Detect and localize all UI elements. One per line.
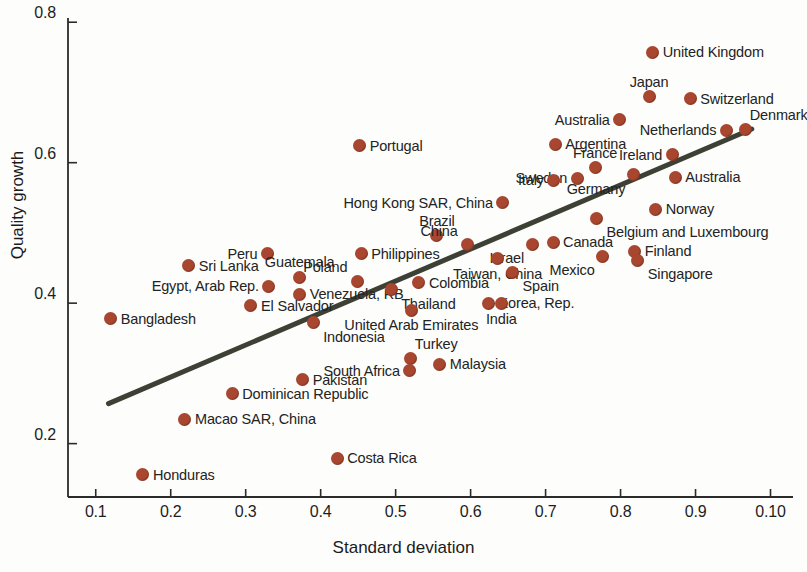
data-point[interactable] [549, 138, 562, 151]
data-point-label: Norway [666, 202, 714, 217]
data-point-label: Poland [303, 260, 347, 275]
data-point-label: Costa Rica [347, 451, 416, 466]
data-point-label: El Salvador [261, 299, 334, 314]
data-point-label: United Kingdom [663, 45, 764, 60]
data-point[interactable] [307, 316, 320, 329]
x-tick-label: 0.10 [755, 503, 785, 521]
data-point-label: Malaysia [450, 357, 506, 372]
data-point[interactable] [526, 238, 539, 251]
data-point-label: Colombia [429, 276, 489, 291]
data-point-label: Ireland [619, 148, 662, 163]
y-tick-label: 0.4 [0, 285, 56, 303]
data-point[interactable] [720, 124, 733, 137]
data-point-label: Sri Lanka [199, 259, 259, 274]
data-point[interactable] [547, 236, 560, 249]
data-point-label: Japan [630, 74, 669, 89]
data-point-label: Australia [555, 113, 610, 128]
y-axis-title: Quality growth [8, 135, 28, 275]
y-tick-label: 0.8 [0, 4, 56, 22]
data-point[interactable] [506, 266, 519, 279]
x-tick-label: 0.6 [460, 503, 482, 521]
x-tick-label: 0.4 [310, 503, 332, 521]
data-point-label: Korea, Rep. [499, 296, 575, 311]
x-tick-label: 0.2 [160, 503, 182, 521]
data-point[interactable] [405, 304, 418, 317]
x-tick-label: 0.9 [685, 503, 707, 521]
data-point[interactable] [627, 168, 640, 181]
x-tick-label: 0.1 [85, 503, 107, 521]
data-point-label: Netherlands [640, 123, 717, 138]
data-point[interactable] [482, 297, 495, 310]
data-point[interactable] [649, 203, 662, 216]
data-point-label: Macao SAR, China [195, 412, 316, 427]
x-tick-label: 0.7 [535, 503, 557, 521]
data-point-label: Belgium and Luxembourg [607, 225, 769, 240]
scatter-chart-figure: 0.20.40.60.8 0.10.20.30.40.50.60.70.80.9… [0, 0, 807, 572]
data-point-label: Portugal [370, 139, 423, 154]
data-point-label: Turkey [415, 336, 458, 351]
data-point-label: Egypt, Arab Rep. [152, 279, 259, 294]
x-tick-label: 0.3 [235, 503, 257, 521]
data-point-label: Switzerland [700, 92, 773, 107]
x-axis-title: Standard deviation [0, 538, 807, 558]
data-point[interactable] [547, 174, 560, 187]
data-point[interactable] [596, 250, 609, 263]
y-tick-label: 0.2 [0, 426, 56, 444]
data-point[interactable] [669, 171, 682, 184]
data-point[interactable] [590, 212, 603, 225]
x-tick-label: 0.5 [385, 503, 407, 521]
data-point[interactable] [226, 387, 239, 400]
data-point-label: United Arab Emirates [344, 318, 478, 333]
data-point[interactable] [178, 413, 191, 426]
data-point-label: Germany [567, 181, 626, 196]
data-point-label: Spain [523, 279, 559, 294]
data-point-label: Mexico [550, 263, 595, 278]
data-point-label: Australia [685, 170, 740, 185]
data-point[interactable] [643, 90, 656, 103]
data-point-label: Italy [518, 173, 544, 188]
data-point-label: Canada [563, 235, 613, 250]
data-point-label: Finland [645, 244, 692, 259]
data-point[interactable] [385, 283, 398, 296]
data-point-label: Honduras [153, 467, 215, 482]
data-point-label: Philippines [371, 247, 439, 262]
data-point-label: Denmark [750, 107, 807, 122]
data-point[interactable] [331, 452, 344, 465]
data-point[interactable] [684, 92, 697, 105]
data-point-label: Hong Kong SAR, China [344, 195, 493, 210]
x-tick-label: 0.8 [610, 503, 632, 521]
data-point-label: Dominican Republic [242, 387, 368, 402]
data-point-label: Singapore [648, 267, 713, 282]
data-point-label: India [486, 312, 517, 327]
data-point-label: France [573, 145, 617, 160]
data-point-label: China [420, 224, 457, 239]
data-point[interactable] [589, 161, 602, 174]
data-point-label: Bangladesh [121, 311, 196, 326]
